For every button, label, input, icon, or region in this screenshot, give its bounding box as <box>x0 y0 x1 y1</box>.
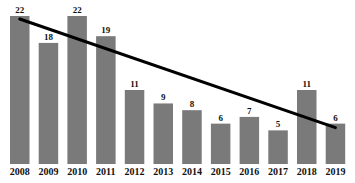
value-label-2008: 22 <box>15 5 25 15</box>
value-label-2009: 18 <box>44 32 54 42</box>
x-axis-label-2009: 2009 <box>38 166 58 177</box>
x-axis-label-2012: 2012 <box>125 166 145 177</box>
x-axis-label-2014: 2014 <box>182 166 202 177</box>
x-axis-label-2018: 2018 <box>297 166 317 177</box>
bar-2011 <box>96 36 116 164</box>
bar-2019 <box>326 124 346 164</box>
x-axis-label-2017: 2017 <box>268 166 288 177</box>
x-axis-label-2010: 2010 <box>67 166 87 177</box>
value-label-2016: 7 <box>247 106 252 116</box>
value-label-2014: 8 <box>190 99 195 109</box>
x-axis-label-2013: 2013 <box>153 166 173 177</box>
bar-2014 <box>182 110 202 164</box>
value-label-2019: 6 <box>333 113 338 123</box>
value-label-2017: 5 <box>276 119 281 129</box>
bar-2017 <box>268 130 288 164</box>
bar-2018 <box>297 90 317 164</box>
bar-chart: 221822191198675116 200820092010201120122… <box>0 0 355 183</box>
x-axis-labels-group: 2008200920102011201220132014201520162017… <box>10 166 346 177</box>
x-axis-label-2011: 2011 <box>96 166 115 177</box>
chart-canvas: 221822191198675116 200820092010201120122… <box>0 0 355 183</box>
bars-group <box>10 16 345 164</box>
bar-2015 <box>211 124 231 164</box>
value-label-2015: 6 <box>218 113 223 123</box>
x-axis-label-2008: 2008 <box>10 166 30 177</box>
value-label-2012: 11 <box>130 79 139 89</box>
value-label-2013: 9 <box>161 92 166 102</box>
bar-2008 <box>10 16 30 164</box>
value-label-2010: 22 <box>73 5 83 15</box>
bar-2012 <box>125 90 145 164</box>
bar-2016 <box>240 117 260 164</box>
value-label-2011: 19 <box>101 25 111 35</box>
x-axis-label-2019: 2019 <box>325 166 345 177</box>
value-label-2018: 11 <box>302 79 311 89</box>
bar-2013 <box>154 103 174 164</box>
bar-2009 <box>39 43 59 164</box>
trend-line <box>20 19 336 128</box>
x-axis-label-2016: 2016 <box>239 166 259 177</box>
x-axis-label-2015: 2015 <box>211 166 231 177</box>
